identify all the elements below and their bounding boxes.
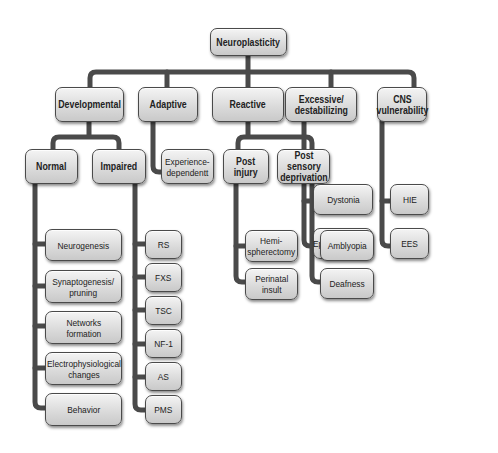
node-label: Excessive/ destabilizing	[294, 94, 347, 116]
node-pms: PMS	[145, 395, 182, 424]
node-label: Developmental	[58, 99, 121, 110]
node-experience-dependent: Experience- dependentt	[161, 149, 214, 184]
node-label: EES	[401, 238, 418, 249]
node-label: Experience- dependentt	[165, 156, 210, 178]
node-label: Perinatal insult	[255, 273, 288, 295]
node-rs: RS	[145, 230, 182, 259]
node-as: AS	[145, 362, 182, 391]
node-label: Impaired	[101, 161, 138, 172]
node-label: Neurogenesis	[58, 240, 110, 251]
node-perinatal-insult: Perinatal insult	[245, 268, 298, 300]
node-developmental: Developmental	[55, 87, 124, 122]
node-networks-formation: Networks formation	[45, 311, 122, 344]
node-label: PMS	[154, 404, 172, 415]
node-cns-vulnerability: CNS vulnerability	[377, 87, 427, 122]
node-label: Adaptive	[149, 99, 186, 110]
node-post-sensory-deprivation: Post sensory deprivation	[277, 149, 330, 184]
node-label: Post sensory deprivation	[280, 150, 327, 183]
connector-lines	[0, 0, 498, 453]
node-label: Normal	[36, 161, 66, 172]
node-dystonia: Dystonia	[313, 184, 373, 215]
node-impaired: Impaired	[92, 149, 146, 184]
node-ees: EES	[390, 228, 429, 259]
node-hemispherectomy: Hemi- spherectomy	[245, 230, 298, 262]
node-label: Dystonia	[327, 194, 360, 205]
node-tsc: TSC	[145, 296, 182, 325]
node-nf-1: NF-1	[145, 329, 182, 358]
node-label: Reactive	[230, 99, 266, 110]
node-label: AS	[158, 371, 169, 382]
node-label: Neuroplasticity	[217, 37, 281, 48]
node-hie: HIE	[390, 184, 429, 215]
node-reactive: Reactive	[212, 87, 284, 122]
node-fxs: FXS	[145, 263, 182, 292]
node-label: NF-1	[154, 338, 173, 349]
node-synaptogenesis-pruning: Synaptogenesis/ pruning	[45, 270, 122, 303]
node-label: Electrophysiological changes	[47, 358, 121, 380]
node-behavior: Behavior	[45, 393, 122, 426]
node-label: Behavior	[67, 404, 100, 415]
node-label: FXS	[155, 272, 171, 283]
node-amblyopia: Amblyopia	[320, 230, 374, 261]
node-normal: Normal	[25, 149, 78, 184]
node-label: Networks formation	[66, 317, 101, 339]
neuroplasticity-diagram: Neuroplasticity Developmental Adaptive R…	[0, 0, 498, 453]
node-neurogenesis: Neurogenesis	[45, 229, 122, 261]
node-excessive-destabilizing: Excessive/ destabilizing	[285, 87, 357, 122]
node-label: RS	[158, 239, 170, 250]
node-label: Post injury	[234, 156, 258, 178]
node-label: HIE	[403, 194, 417, 205]
node-electrophysiological-changes: Electrophysiological changes	[45, 352, 122, 385]
node-label: Amblyopia	[327, 240, 366, 251]
node-post-injury: Post injury	[223, 149, 269, 184]
node-label: TSC	[155, 305, 172, 316]
node-label: Hemi- spherectomy	[248, 235, 296, 257]
node-label: CNS vulnerability	[376, 94, 428, 116]
node-deafness: Deafness	[320, 268, 374, 299]
node-adaptive: Adaptive	[138, 87, 198, 122]
node-neuroplasticity: Neuroplasticity	[210, 28, 287, 56]
node-label: Deafness	[329, 278, 364, 289]
node-label: Synaptogenesis/ pruning	[53, 276, 115, 298]
